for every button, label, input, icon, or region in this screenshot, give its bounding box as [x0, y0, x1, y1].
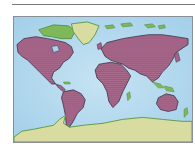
top-divider: [12, 4, 195, 5]
world-map: [13, 16, 193, 143]
world-map-graphic: [14, 17, 192, 142]
